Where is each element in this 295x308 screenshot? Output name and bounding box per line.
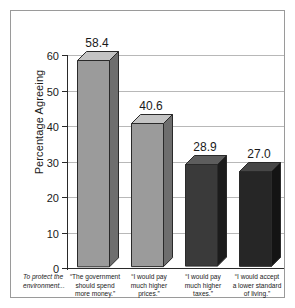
bar-front-face — [77, 60, 109, 266]
y-tick-label: 10 — [47, 228, 59, 240]
y-tick-mark — [62, 126, 68, 127]
category-label: “I would paymuch highertaxes.” — [176, 273, 230, 299]
y-axis-line — [67, 55, 68, 270]
category-intro-label: To protect theenvironment... — [23, 273, 67, 290]
bar — [77, 51, 120, 269]
bar-side-face — [271, 163, 280, 267]
y-tick-label: 50 — [47, 86, 59, 98]
category-labels: To protect theenvironment...“The governm… — [23, 273, 285, 308]
category-label: “I would accepta lower standardof living… — [230, 273, 284, 299]
bar-front-face — [239, 172, 271, 267]
bar-value-label: 58.4 — [85, 36, 108, 50]
bar-side-face — [217, 156, 226, 267]
chart-frame: Percentage Agreeing 0102030405060 58.440… — [10, 10, 285, 298]
y-tick-label: 60 — [47, 50, 59, 62]
y-axis-label: Percentage Agreeing — [33, 42, 45, 202]
bar — [239, 162, 282, 269]
y-tick-mark — [62, 91, 68, 92]
y-tick-mark — [62, 55, 68, 56]
bar-front-face — [131, 123, 163, 266]
bar — [185, 155, 228, 269]
bar-value-label: 28.9 — [193, 140, 216, 154]
bar-side-face — [109, 51, 118, 266]
plot-area: 0102030405060 58.440.628.927.0 — [68, 56, 284, 269]
y-tick-label: 20 — [47, 192, 59, 204]
bar — [131, 114, 174, 269]
y-tick-label: 30 — [47, 157, 59, 169]
y-tick-mark — [62, 197, 68, 198]
chart-figure: Percentage Agreeing 0102030405060 58.440… — [0, 0, 295, 308]
bar-value-label: 27.0 — [247, 147, 270, 161]
bar-value-label: 40.6 — [139, 99, 162, 113]
bar-front-face — [185, 165, 217, 267]
bar-side-face — [163, 114, 172, 266]
y-tick-mark — [62, 162, 68, 163]
category-label: “The governmentshould spendmore money.” — [68, 273, 122, 299]
category-label: “I would paymuch higherprices.” — [122, 273, 176, 299]
y-tick-mark — [62, 233, 68, 234]
y-tick-mark — [62, 268, 68, 269]
y-tick-label: 40 — [47, 121, 59, 133]
